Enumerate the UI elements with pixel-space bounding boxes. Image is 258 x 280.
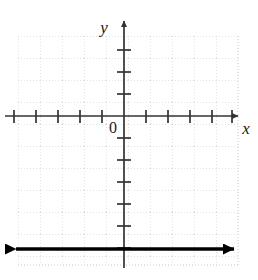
x-axis-label: x <box>241 119 250 138</box>
coordinate-plane-figure: y x 0 <box>0 0 258 280</box>
origin-label: 0 <box>109 119 117 136</box>
grid <box>18 36 238 265</box>
graph-canvas: y x 0 <box>0 0 258 280</box>
y-axis-label: y <box>98 18 108 37</box>
